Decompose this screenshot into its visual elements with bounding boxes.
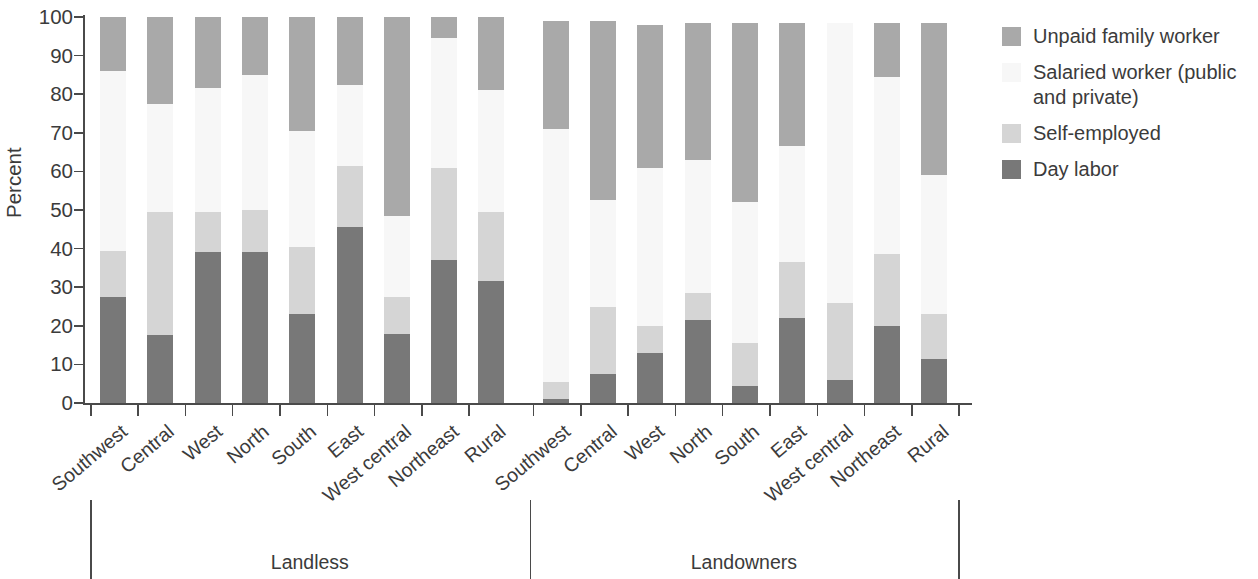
bar-segment-day-labor[interactable]: [921, 359, 947, 403]
bar-segment-salaried-worker[interactable]: [289, 131, 315, 247]
stacked-bar[interactable]: [431, 17, 457, 403]
bar-segment-unpaid-family-worker[interactable]: [590, 21, 616, 200]
x-tick-mark: [864, 403, 866, 416]
bar-segment-self-employed[interactable]: [637, 326, 663, 353]
bar-segment-day-labor[interactable]: [431, 260, 457, 403]
bar-segment-unpaid-family-worker[interactable]: [543, 21, 569, 129]
bar-segment-salaried-worker[interactable]: [147, 104, 173, 212]
bar-segment-day-labor[interactable]: [874, 326, 900, 403]
bar-segment-salaried-worker[interactable]: [543, 129, 569, 382]
bar-segment-unpaid-family-worker[interactable]: [289, 17, 315, 131]
stacked-bar[interactable]: [590, 17, 616, 403]
bar-segment-unpaid-family-worker[interactable]: [685, 23, 711, 160]
stacked-bar[interactable]: [147, 17, 173, 403]
bar-segment-self-employed[interactable]: [242, 210, 268, 252]
stacked-bar[interactable]: [337, 17, 363, 403]
bar-segment-salaried-worker[interactable]: [732, 202, 758, 343]
y-tick-label: 40: [23, 237, 73, 261]
stacked-bar[interactable]: [732, 17, 758, 403]
bar-segment-self-employed[interactable]: [478, 212, 504, 281]
legend-item[interactable]: Salaried worker (public and private): [1002, 60, 1258, 110]
bar-segment-day-labor[interactable]: [827, 380, 853, 403]
stacked-bar[interactable]: [543, 17, 569, 403]
bar-segment-day-labor[interactable]: [779, 318, 805, 403]
bar-segment-self-employed[interactable]: [732, 343, 758, 385]
bar-segment-self-employed[interactable]: [195, 212, 221, 253]
legend-item[interactable]: Day labor: [1002, 157, 1258, 182]
bar-segment-unpaid-family-worker[interactable]: [147, 17, 173, 104]
bar-segment-self-employed[interactable]: [874, 254, 900, 325]
stacked-bar[interactable]: [384, 17, 410, 403]
bar-segment-self-employed[interactable]: [827, 303, 853, 380]
bar-segment-salaried-worker[interactable]: [590, 200, 616, 306]
bar-segment-salaried-worker[interactable]: [384, 216, 410, 297]
stacked-bar[interactable]: [289, 17, 315, 403]
stacked-bar[interactable]: [242, 17, 268, 403]
stacked-bar[interactable]: [637, 17, 663, 403]
bar-segment-self-employed[interactable]: [590, 307, 616, 375]
bar-segment-day-labor[interactable]: [242, 252, 268, 403]
bar-segment-salaried-worker[interactable]: [431, 38, 457, 167]
stacked-bar[interactable]: [100, 17, 126, 403]
stacked-bar[interactable]: [779, 17, 805, 403]
stacked-bar[interactable]: [685, 17, 711, 403]
bar-segment-self-employed[interactable]: [921, 314, 947, 358]
legend-item[interactable]: Self-employed: [1002, 121, 1258, 146]
bar-segment-unpaid-family-worker[interactable]: [100, 17, 126, 71]
x-tick-label: West: [178, 420, 227, 466]
y-tick-mark: [74, 325, 83, 327]
bar-segment-self-employed[interactable]: [685, 293, 711, 320]
bar-segment-self-employed[interactable]: [431, 168, 457, 261]
bar-segment-day-labor[interactable]: [384, 334, 410, 403]
bar-segment-unpaid-family-worker[interactable]: [921, 23, 947, 175]
bar-segment-unpaid-family-worker[interactable]: [337, 17, 363, 85]
bar-segment-unpaid-family-worker[interactable]: [874, 23, 900, 77]
bar-segment-salaried-worker[interactable]: [827, 23, 853, 303]
bar-segment-day-labor[interactable]: [100, 297, 126, 403]
bar-segment-unpaid-family-worker[interactable]: [732, 23, 758, 202]
stacked-bar[interactable]: [827, 17, 853, 403]
bar-segment-unpaid-family-worker[interactable]: [195, 17, 221, 88]
bar-segment-unpaid-family-worker[interactable]: [384, 17, 410, 216]
bar-segment-day-labor[interactable]: [147, 335, 173, 403]
bar-segment-unpaid-family-worker[interactable]: [637, 25, 663, 168]
bar-segment-self-employed[interactable]: [384, 297, 410, 334]
bar-segment-salaried-worker[interactable]: [779, 146, 805, 262]
bar-segment-day-labor[interactable]: [337, 227, 363, 403]
bar-segment-day-labor[interactable]: [543, 399, 569, 403]
bar-segment-day-labor[interactable]: [195, 252, 221, 403]
bar-segment-day-labor[interactable]: [590, 374, 616, 403]
bar-segment-day-labor[interactable]: [637, 353, 663, 403]
bar-segment-day-labor[interactable]: [732, 386, 758, 403]
bar-segment-unpaid-family-worker[interactable]: [779, 23, 805, 147]
stacked-bar[interactable]: [874, 17, 900, 403]
stacked-bar[interactable]: [478, 17, 504, 403]
bar-segment-day-labor[interactable]: [685, 320, 711, 403]
bar-segment-self-employed[interactable]: [543, 382, 569, 399]
bar-segment-day-labor[interactable]: [478, 281, 504, 403]
bar-segment-unpaid-family-worker[interactable]: [242, 17, 268, 75]
stacked-bar[interactable]: [195, 17, 221, 403]
bar-segment-day-labor[interactable]: [289, 314, 315, 403]
bar-segment-unpaid-family-worker[interactable]: [431, 17, 457, 38]
bar-segment-salaried-worker[interactable]: [637, 168, 663, 326]
stacked-bar[interactable]: [921, 17, 947, 403]
legend-swatch-icon: [1002, 63, 1021, 82]
bar-segment-salaried-worker[interactable]: [242, 75, 268, 210]
bar-segment-self-employed[interactable]: [779, 262, 805, 318]
legend-item[interactable]: Unpaid family worker: [1002, 24, 1258, 49]
bar-segment-unpaid-family-worker[interactable]: [478, 17, 504, 90]
x-axis-line: [83, 403, 972, 405]
bar-segment-salaried-worker[interactable]: [478, 90, 504, 212]
bar-segment-self-employed[interactable]: [100, 251, 126, 297]
bar-segment-salaried-worker[interactable]: [195, 88, 221, 212]
bar-segment-self-employed[interactable]: [147, 212, 173, 336]
x-tick-mark: [533, 403, 535, 416]
bar-segment-salaried-worker[interactable]: [921, 175, 947, 314]
bar-segment-self-employed[interactable]: [337, 166, 363, 228]
bar-segment-salaried-worker[interactable]: [100, 71, 126, 250]
bar-segment-salaried-worker[interactable]: [337, 85, 363, 166]
bar-segment-self-employed[interactable]: [289, 247, 315, 315]
bar-segment-salaried-worker[interactable]: [685, 160, 711, 293]
bar-segment-salaried-worker[interactable]: [874, 77, 900, 255]
